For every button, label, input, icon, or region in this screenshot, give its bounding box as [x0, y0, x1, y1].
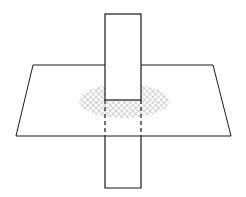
bar-lower — [105, 136, 141, 188]
diagram-canvas — [0, 0, 246, 197]
bar-upper — [105, 14, 141, 100]
